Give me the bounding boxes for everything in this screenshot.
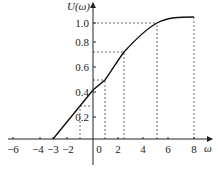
reference-lines [80, 17, 194, 139]
y-tick-label: 0.4 [75, 86, 89, 98]
y-tick-label: 0.8 [75, 36, 89, 48]
x-tick-label: 0 [96, 143, 102, 155]
x-axis-label: ω [204, 142, 212, 154]
y-tick-label: 0.6 [75, 61, 89, 73]
y-axis-label: U(ω) [67, 0, 90, 13]
chart-canvas: −6 −4 −3 −2 0 2 4 6 8 0.2 0.4 0.6 0.8 1.… [0, 0, 218, 170]
x-tick-label: −4 [32, 143, 44, 155]
y-tick-label: 1.0 [75, 17, 89, 29]
x-tick-label: −3 [47, 143, 59, 155]
x-tick-label: −2 [62, 143, 74, 155]
series-line-U [53, 17, 194, 139]
x-tick-labels: −6 −4 −3 −2 0 2 4 6 8 [7, 143, 197, 155]
y-tick-label: 0.2 [75, 111, 89, 123]
x-tick-label: 6 [165, 143, 171, 155]
x-tick-label: −6 [7, 143, 19, 155]
x-tick-label: 2 [115, 143, 121, 155]
x-tick-label: 4 [140, 143, 146, 155]
x-tick-label: 8 [191, 143, 197, 155]
y-tick-labels: 0.2 0.4 0.6 0.8 1.0 [75, 17, 89, 123]
